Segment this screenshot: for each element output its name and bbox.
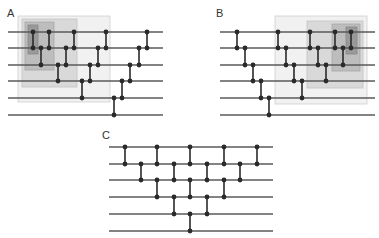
gate-dot-icon (316, 63, 321, 68)
gate-dot-icon (324, 79, 329, 84)
gate-dot-icon (188, 162, 193, 167)
gate-dot-icon (276, 46, 281, 51)
gate-dot-icon (56, 63, 61, 68)
gate-dot-icon (56, 79, 61, 84)
panel-b-gate-1 (243, 46, 248, 68)
gate-dot-icon (155, 162, 160, 167)
gate-dot-icon (139, 162, 144, 167)
gate-dot-icon (120, 96, 125, 101)
gate-dot-icon (172, 195, 177, 200)
panel-c-gate-4 (172, 162, 177, 183)
gate-dot-icon (112, 96, 117, 101)
gate-dot-icon (96, 63, 101, 68)
panel-b-gate-2 (251, 63, 256, 84)
panel-c-gate-1 (139, 162, 144, 183)
gate-dot-icon (172, 162, 177, 167)
gate-dot-icon (64, 63, 69, 68)
panel-c-gate-0 (123, 145, 128, 167)
panel-c-gate-5 (172, 195, 177, 217)
panel-c-gate-9 (205, 162, 210, 183)
circuit-diagram-figure: A B C (0, 0, 379, 238)
gate-dot-icon (155, 178, 160, 183)
gate-dot-icon (222, 145, 227, 150)
gate-dot-icon (238, 178, 243, 183)
gate-dot-icon (205, 212, 210, 217)
gate-dot-icon (72, 46, 77, 51)
gate-dot-icon (349, 46, 354, 51)
gate-dot-icon (284, 46, 289, 51)
panel-a-gate-10 (112, 96, 117, 118)
gate-dot-icon (96, 46, 101, 51)
gate-dot-icon (349, 30, 354, 35)
gate-dot-icon (31, 30, 36, 35)
gate-dot-icon (316, 46, 321, 51)
gate-dot-icon (137, 63, 142, 68)
gate-dot-icon (222, 162, 227, 167)
panel-a-gate-11 (120, 79, 125, 101)
panel-c-gate-6 (188, 145, 193, 167)
panel-a-gate-14 (145, 30, 150, 51)
gate-dot-icon (333, 46, 338, 51)
gate-dot-icon (235, 46, 240, 51)
panel-c-gate-12 (222, 178, 227, 200)
gate-dot-icon (155, 145, 160, 150)
panel-b-highlight-boxes (275, 16, 367, 104)
gate-dot-icon (267, 96, 272, 101)
gate-dot-icon (243, 46, 248, 51)
gate-dot-icon (188, 212, 193, 217)
gate-dot-icon (222, 195, 227, 200)
gate-dot-icon (341, 46, 346, 51)
gate-dot-icon (145, 30, 150, 35)
gate-dot-icon (39, 46, 44, 51)
gate-dot-icon (47, 30, 52, 35)
gate-dot-icon (341, 63, 346, 68)
panel-c-wires (109, 147, 273, 231)
gate-dot-icon (145, 46, 150, 51)
panel-c-gate-3 (155, 178, 160, 200)
panel-c-gate-2 (155, 145, 160, 167)
gate-dot-icon (255, 145, 260, 150)
gate-dot-icon (276, 30, 281, 35)
panel-c-gate-10 (205, 195, 210, 217)
gate-dot-icon (188, 145, 193, 150)
gate-dot-icon (238, 162, 243, 167)
gate-dot-icon (292, 79, 297, 84)
gate-dot-icon (104, 30, 109, 35)
gate-dot-icon (235, 30, 240, 35)
gate-dot-icon (222, 178, 227, 183)
gate-dot-icon (112, 113, 117, 118)
panel-c-gate-14 (255, 145, 260, 167)
panel-a-highlight-boxes (18, 16, 110, 102)
panel-c-gates (123, 145, 260, 234)
gate-dot-icon (88, 63, 93, 68)
gate-dot-icon (251, 79, 256, 84)
panel-c: C (102, 129, 273, 233)
gate-dot-icon (128, 63, 133, 68)
gate-dot-icon (267, 113, 272, 118)
gate-dot-icon (284, 63, 289, 68)
panel-b-gate-3 (259, 79, 264, 101)
panel-a-gate-12 (128, 63, 133, 84)
gate-dot-icon (72, 30, 77, 35)
gate-dot-icon (155, 195, 160, 200)
gate-dot-icon (205, 178, 210, 183)
gate-dot-icon (205, 195, 210, 200)
panel-b: B (216, 7, 375, 117)
gate-dot-icon (104, 46, 109, 51)
gate-dot-icon (251, 63, 256, 68)
gate-dot-icon (31, 46, 36, 51)
gate-dot-icon (128, 79, 133, 84)
gate-dot-icon (308, 46, 313, 51)
panel-c-gate-13 (238, 162, 243, 183)
gate-dot-icon (123, 162, 128, 167)
gate-dot-icon (139, 178, 144, 183)
gate-dot-icon (308, 30, 313, 35)
gate-dot-icon (259, 79, 264, 84)
panel-b-gate-0 (235, 30, 240, 51)
gate-dot-icon (292, 63, 297, 68)
gate-dot-icon (243, 63, 248, 68)
panel-c-gate-8 (188, 212, 193, 234)
panel-c-gate-11 (222, 145, 227, 167)
gate-dot-icon (188, 195, 193, 200)
gate-dot-icon (188, 178, 193, 183)
